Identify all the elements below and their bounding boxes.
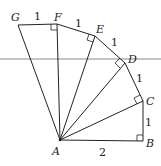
diagram-canvas: A B C D E F G 2 1 1 1 1 1 (0, 0, 161, 166)
label-C: C (146, 95, 155, 108)
length-BC: 1 (145, 116, 152, 129)
segment-AD (60, 63, 125, 140)
label-A: A (51, 145, 60, 158)
length-FG: 1 (34, 10, 41, 23)
segment-AG (18, 25, 60, 140)
segment-AC (60, 101, 143, 140)
segment-AB (60, 140, 143, 141)
label-D: D (127, 53, 137, 66)
length-AB: 2 (99, 146, 106, 159)
label-G: G (11, 11, 20, 24)
segment-AF (57, 24, 60, 140)
length-EF: 1 (75, 17, 82, 30)
label-B: B (145, 137, 154, 150)
spiral-triangles-diagram: A B C D E F G 2 1 1 1 1 1 (0, 0, 161, 166)
length-CD: 1 (136, 72, 143, 85)
point-A-dot (59, 139, 62, 142)
right-angle-F (51, 24, 57, 30)
right-angle-B (137, 135, 143, 141)
length-DE: 1 (111, 36, 118, 49)
label-F: F (53, 11, 62, 24)
label-E: E (95, 23, 104, 36)
segment-AE (60, 36, 95, 140)
